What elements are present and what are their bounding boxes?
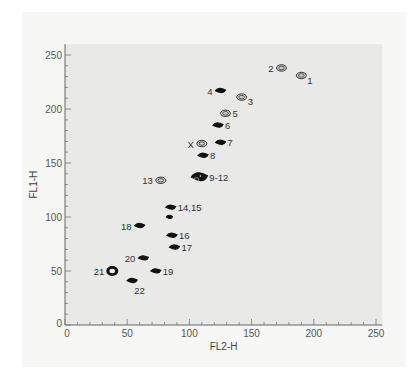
cluster-unlabeled [166, 215, 172, 218]
cluster-label: 9-12 [209, 172, 228, 183]
cluster-label: 7 [228, 137, 233, 148]
cluster-label: 17 [181, 242, 192, 253]
contour-plot: 050100150200250050100150200250 1234567X8… [0, 0, 418, 384]
cluster-label: 2 [268, 63, 273, 74]
cluster-label: 8 [210, 150, 215, 161]
cluster-label: 4 [207, 86, 212, 97]
cluster-label: 14,15 [178, 202, 202, 213]
y-tick-label: 0 [56, 318, 62, 329]
cluster-label: 6 [225, 120, 230, 131]
cluster-label: 5 [232, 108, 237, 119]
x-tick-label: 100 [181, 328, 198, 339]
cluster-label: 20 [125, 253, 136, 264]
y-tick-label: 50 [51, 266, 63, 277]
plot-area [65, 44, 382, 325]
x-tick-label: 200 [305, 328, 322, 339]
x-tick-label: 0 [64, 328, 70, 339]
cluster-label: 22 [134, 285, 145, 296]
x-tick-label: 250 [368, 328, 385, 339]
y-tick-label: 100 [45, 212, 62, 223]
cluster-label: 3 [248, 96, 253, 107]
cluster-label: 13 [142, 175, 153, 186]
cluster-label: 16 [179, 230, 190, 241]
cluster-label: 21 [94, 266, 105, 277]
y-tick-label: 250 [45, 50, 62, 61]
x-axis-label: FL2-H [210, 341, 238, 352]
x-tick-label: 50 [122, 328, 134, 339]
y-axis-label: FL1-H [28, 171, 39, 199]
cluster-label: 1 [307, 75, 312, 86]
y-tick-label: 200 [45, 104, 62, 115]
cluster-label: 19 [163, 266, 174, 277]
y-tick-label: 150 [45, 158, 62, 169]
cluster-label: X [187, 139, 194, 150]
cluster-label: 18 [121, 221, 132, 232]
x-tick-label: 150 [243, 328, 260, 339]
